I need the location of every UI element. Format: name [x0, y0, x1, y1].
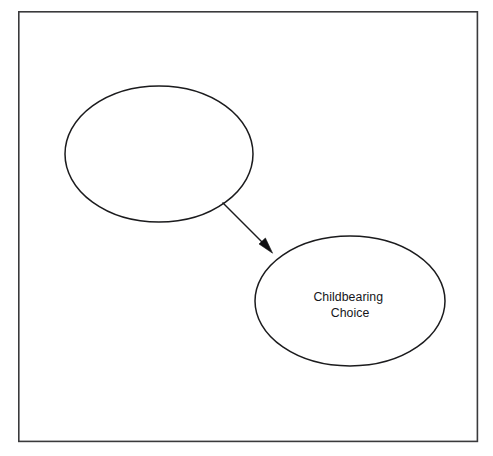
diagram-canvas: Childbearing Choice [0, 0, 493, 456]
concept-label-line-2: Choice [331, 306, 370, 320]
concept-node-blank[interactable] [65, 86, 253, 222]
diagram-root: Childbearing Choice [0, 0, 493, 456]
concept-label-line-1: Childbearing [313, 290, 383, 304]
outer-frame [19, 12, 478, 442]
